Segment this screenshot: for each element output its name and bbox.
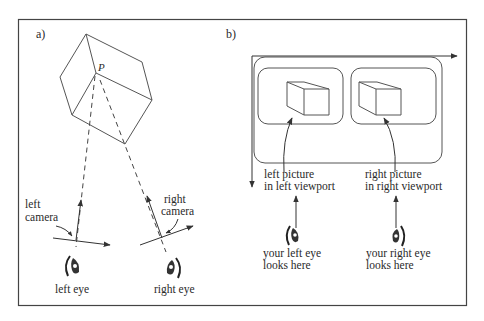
right-picture-pointer: [384, 118, 395, 172]
right-viewport: [351, 68, 436, 124]
left-picture-pointer: [284, 118, 292, 172]
left-viewport: [258, 68, 343, 124]
display-window: [254, 57, 442, 163]
left-camera: [53, 200, 110, 245]
right-camera-label: right camera: [161, 193, 194, 217]
right-eye-icon: [167, 258, 180, 278]
panel-a: a) P left camera right: [25, 27, 195, 296]
panel-b: b) left picture in left viewport: [226, 27, 457, 271]
right-eye-icon-b: [393, 226, 405, 246]
right-sight-line: [100, 80, 166, 252]
left-eye-caption: your left eye looks here: [263, 247, 324, 271]
right-eye-label: right eye: [154, 283, 195, 296]
left-eye-icon: [66, 256, 79, 276]
right-picture-label: right picture in right viewport: [365, 168, 443, 193]
panel-b-label: b): [226, 27, 236, 41]
stereo-viewing-diagram: a) P left camera right: [0, 0, 484, 321]
left-cube: [287, 82, 329, 115]
panel-a-label: a): [36, 27, 45, 41]
right-eye-caption: your right eye looks here: [366, 247, 433, 271]
right-cube: [359, 82, 401, 115]
left-camera-label: left camera: [25, 198, 58, 223]
left-sight-line: [76, 76, 95, 247]
cube-3d: [60, 34, 152, 144]
left-eye-label: left eye: [55, 283, 89, 296]
left-picture-label: left picture in left viewport: [264, 168, 336, 193]
point-p-label: P: [97, 61, 105, 73]
left-eye-icon-b: [287, 226, 299, 245]
